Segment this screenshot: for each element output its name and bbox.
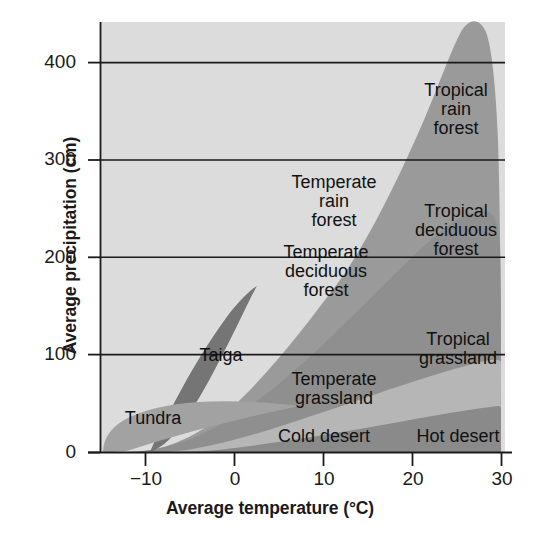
xtick-label-20: 20 [383,468,443,490]
xtick-label-30: 30 [472,468,532,490]
x-axis-title: Average temperature (°C) [0,498,540,519]
xtick-label-10: 10 [294,468,354,490]
y-axis-title: Average precipitation (cm) [60,0,81,506]
chart-canvas [0,0,540,545]
xtick-label-neg10: −10 [116,468,176,490]
biome-climate-chart: 400 300 200 100 0 −10 0 10 20 30 Average… [0,0,540,545]
xtick-label-0: 0 [205,468,265,490]
